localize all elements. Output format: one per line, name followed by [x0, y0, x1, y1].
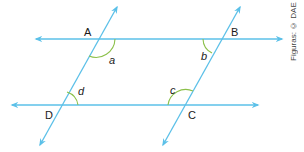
angle-label-a: a: [109, 54, 115, 66]
point-label-a: A: [84, 26, 92, 38]
point-label-b: B: [231, 26, 238, 38]
angle-label-d: d: [78, 85, 85, 97]
parallel-lines-diagram: A B C D a b c d: [0, 0, 304, 152]
line-BC: [163, 7, 240, 145]
figure-credit: Figuras: © DAE: [289, 2, 303, 82]
angle-label-b: b: [201, 50, 207, 62]
point-label-d: D: [45, 109, 53, 121]
point-label-c: C: [188, 109, 196, 121]
line-AD: [40, 7, 117, 145]
angle-label-c: c: [170, 84, 176, 96]
